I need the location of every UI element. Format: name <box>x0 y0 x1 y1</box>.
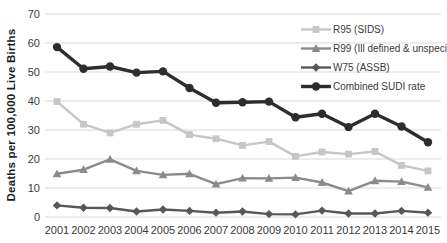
svg-text:2004: 2004 <box>124 224 148 236</box>
y-tick-labels: 010203040506070 <box>28 8 40 223</box>
legend-diamond-marker-icon <box>301 61 331 74</box>
legend-label: Combined SUDI rate <box>333 81 425 92</box>
legend-square-marker-icon <box>301 23 331 36</box>
svg-text:40: 40 <box>28 95 40 107</box>
svg-text:2003: 2003 <box>98 224 122 236</box>
series-w75-assb <box>53 201 432 218</box>
series-r99-ill-defined <box>53 155 433 195</box>
legend-label: R95 (SIDS) <box>333 24 384 35</box>
svg-text:50: 50 <box>28 66 40 78</box>
legend-triangle-marker-icon <box>301 42 331 55</box>
legend-circle-marker-icon <box>301 80 331 93</box>
svg-text:20: 20 <box>28 153 40 165</box>
svg-text:2005: 2005 <box>151 224 175 236</box>
svg-text:0: 0 <box>34 211 40 223</box>
x-axis-labels: 2001200220032004200520062007200820092010… <box>45 224 440 236</box>
svg-text:2007: 2007 <box>204 224 228 236</box>
svg-text:2001: 2001 <box>45 224 69 236</box>
y-axis-title: Deaths per 100,000 Live Births <box>5 13 17 217</box>
svg-text:2008: 2008 <box>230 224 254 236</box>
legend: R95 (SIDS) R99 (Ill defined & unspecifie… <box>301 20 447 96</box>
svg-text:10: 10 <box>28 182 40 194</box>
svg-text:2010: 2010 <box>283 224 307 236</box>
legend-item-r99-ill-defined: R99 (Ill defined & unspecified) <box>301 39 447 58</box>
svg-text:2014: 2014 <box>389 224 413 236</box>
legend-item-r95-sids: R95 (SIDS) <box>301 20 447 39</box>
svg-text:2006: 2006 <box>177 224 201 236</box>
svg-text:2002: 2002 <box>71 224 95 236</box>
svg-text:30: 30 <box>28 124 40 136</box>
svg-text:60: 60 <box>28 37 40 49</box>
svg-text:2011: 2011 <box>310 224 334 236</box>
svg-text:2012: 2012 <box>336 224 360 236</box>
sudi-rates-line-chart: 0102030405060702001200220032004200520062… <box>0 0 447 243</box>
legend-item-combined-sudi: Combined SUDI rate <box>301 77 447 96</box>
legend-label: R99 (Ill defined & unspecified) <box>333 43 447 54</box>
legend-item-w75-assb: W75 (ASSB) <box>301 58 447 77</box>
svg-text:70: 70 <box>28 8 40 20</box>
svg-text:2015: 2015 <box>416 224 440 236</box>
svg-text:2013: 2013 <box>363 224 387 236</box>
legend-label: W75 (ASSB) <box>333 62 390 73</box>
svg-text:2009: 2009 <box>257 224 281 236</box>
